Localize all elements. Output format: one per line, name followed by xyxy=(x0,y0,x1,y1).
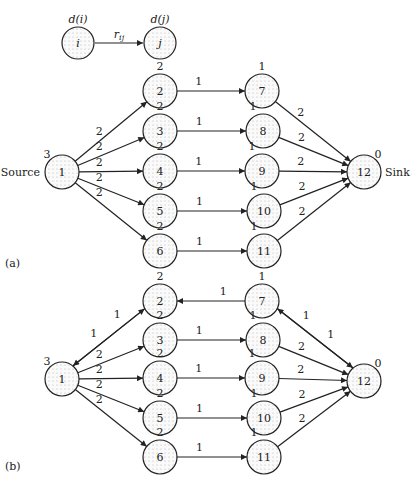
legend-node-i-label: i xyxy=(76,37,80,50)
residual-network-diagram: i j d(i) d(j) rij 2222211111222221322324… xyxy=(0,0,418,489)
node-distance-label: 1 xyxy=(250,100,257,113)
sink-label: Sink xyxy=(385,166,410,179)
edge-10-to-12 xyxy=(280,387,348,412)
edge-capacity-label: 1 xyxy=(220,285,227,298)
edge-capacity-label: 1 xyxy=(196,115,203,128)
edge-1-to-3 xyxy=(78,346,144,372)
node-id-label: 9 xyxy=(259,372,266,385)
node-id-label: 12 xyxy=(357,375,371,388)
edge-capacity-label: 1 xyxy=(196,324,203,337)
edge-capacity-label: 2 xyxy=(96,171,103,184)
node-id-label: 10 xyxy=(257,412,271,425)
node-id-label: 1 xyxy=(59,166,66,179)
node-distance-label: 2 xyxy=(157,60,164,73)
legend-edge-label: rij xyxy=(114,28,125,42)
edge-capacity-label: 2 xyxy=(96,140,103,153)
node-id-label: 4 xyxy=(157,372,164,385)
edge-1-to-2 xyxy=(75,102,147,161)
node-id-label: 9 xyxy=(259,165,266,178)
edge-1-to-4 xyxy=(79,378,143,379)
edge-capacity-label: 2 xyxy=(96,156,103,169)
edge-capacity-label: 2 xyxy=(96,378,103,391)
edge-capacity-label: 1 xyxy=(196,402,203,415)
edge-capacity-label: 1 xyxy=(327,328,334,341)
edge-7-to-12 xyxy=(275,102,350,162)
node-distance-label: 2 xyxy=(157,309,164,322)
node-distance-label: 0 xyxy=(375,357,382,370)
node-distance-label: 2 xyxy=(157,180,164,193)
edge-10-to-12 xyxy=(280,178,348,205)
panel-a: 2222211111222221322324252627181911011111… xyxy=(44,60,382,268)
node-id-label: 6 xyxy=(157,245,164,258)
node-id-label: 5 xyxy=(157,412,164,425)
edge-capacity-label: 2 xyxy=(299,180,306,193)
edge-capacity-label: 2 xyxy=(299,205,306,218)
edge-1-to-4 xyxy=(79,171,143,172)
edge-capacity-label: 1 xyxy=(196,235,203,248)
node-distance-label: 1 xyxy=(259,270,266,283)
edge-8-to-12 xyxy=(279,346,348,374)
node-id-label: 3 xyxy=(157,125,164,138)
edge-capacity-label: 1 xyxy=(303,309,310,322)
edge-capacity-label: 1 xyxy=(114,308,121,321)
node-distance-label: 1 xyxy=(251,387,258,400)
panel-b-caption: (b) xyxy=(5,460,21,473)
edge-9-to-12 xyxy=(279,171,347,172)
node-distance-label: 2 xyxy=(157,426,164,439)
legend-dist-i: d(i) xyxy=(68,13,87,26)
node-id-label: 5 xyxy=(157,205,164,218)
edge-capacity-label: 1 xyxy=(195,362,202,375)
node-distance-label: 2 xyxy=(157,220,164,233)
node-distance-label: 2 xyxy=(157,100,164,113)
edge-capacity-label: 2 xyxy=(96,186,103,199)
edge-capacity-label: 2 xyxy=(96,125,103,138)
node-distance-label: 2 xyxy=(157,347,164,360)
edge-1-to-5 xyxy=(78,178,144,204)
node-distance-label: 2 xyxy=(157,270,164,283)
node-distance-label: 1 xyxy=(249,140,256,153)
legend: i j d(i) d(j) rij xyxy=(62,13,176,59)
edge-capacity-label: 2 xyxy=(297,155,304,168)
edge-capacity-label: 2 xyxy=(96,393,103,406)
node-distance-label: 2 xyxy=(157,387,164,400)
node-id-label: 3 xyxy=(157,334,164,347)
node-distance-label: 1 xyxy=(251,426,258,439)
node-id-label: 11 xyxy=(257,451,271,464)
edge-2-to-1 xyxy=(73,309,144,366)
edge-capacity-label: 2 xyxy=(96,348,103,361)
node-id-label: 7 xyxy=(259,85,266,98)
edge-capacity-label: 2 xyxy=(299,412,306,425)
node-id-label: 10 xyxy=(257,205,271,218)
edge-capacity-label: 2 xyxy=(299,388,306,401)
node-distance-label: 1 xyxy=(251,220,258,233)
edge-9-to-12 xyxy=(279,378,347,380)
node-distance-label: 1 xyxy=(249,347,256,360)
node-id-label: 6 xyxy=(157,451,164,464)
node-distance-label: 3 xyxy=(44,148,51,161)
edge-capacity-label: 1 xyxy=(90,327,97,340)
node-id-label: 4 xyxy=(157,165,164,178)
node-distance-label: 0 xyxy=(375,148,382,161)
node-id-label: 8 xyxy=(260,125,267,138)
edge-capacity-label: 1 xyxy=(195,75,202,88)
panel-a-caption: (a) xyxy=(5,257,20,270)
edge-capacity-label: 2 xyxy=(298,131,305,144)
edge-12-to-7 xyxy=(278,309,353,368)
panel-b: 1122221111111222213223242526271819110111… xyxy=(44,270,382,474)
edge-capacity-label: 2 xyxy=(297,106,304,119)
node-distance-label: 1 xyxy=(259,60,266,73)
edge-capacity-label: 1 xyxy=(196,195,203,208)
node-id-label: 12 xyxy=(357,166,371,179)
node-distance-label: 1 xyxy=(250,309,257,322)
node-id-label: 2 xyxy=(157,295,164,308)
node-id-label: 2 xyxy=(157,85,164,98)
edge-capacity-label: 2 xyxy=(298,340,305,353)
node-id-label: 7 xyxy=(259,295,266,308)
edge-capacity-label: 1 xyxy=(196,441,203,454)
node-id-label: 11 xyxy=(257,245,271,258)
node-distance-label: 3 xyxy=(44,355,51,368)
edge-capacity-label: 2 xyxy=(297,363,304,376)
edge-capacity-label: 2 xyxy=(96,363,103,376)
node-id-label: 8 xyxy=(260,334,267,347)
node-distance-label: 2 xyxy=(157,140,164,153)
